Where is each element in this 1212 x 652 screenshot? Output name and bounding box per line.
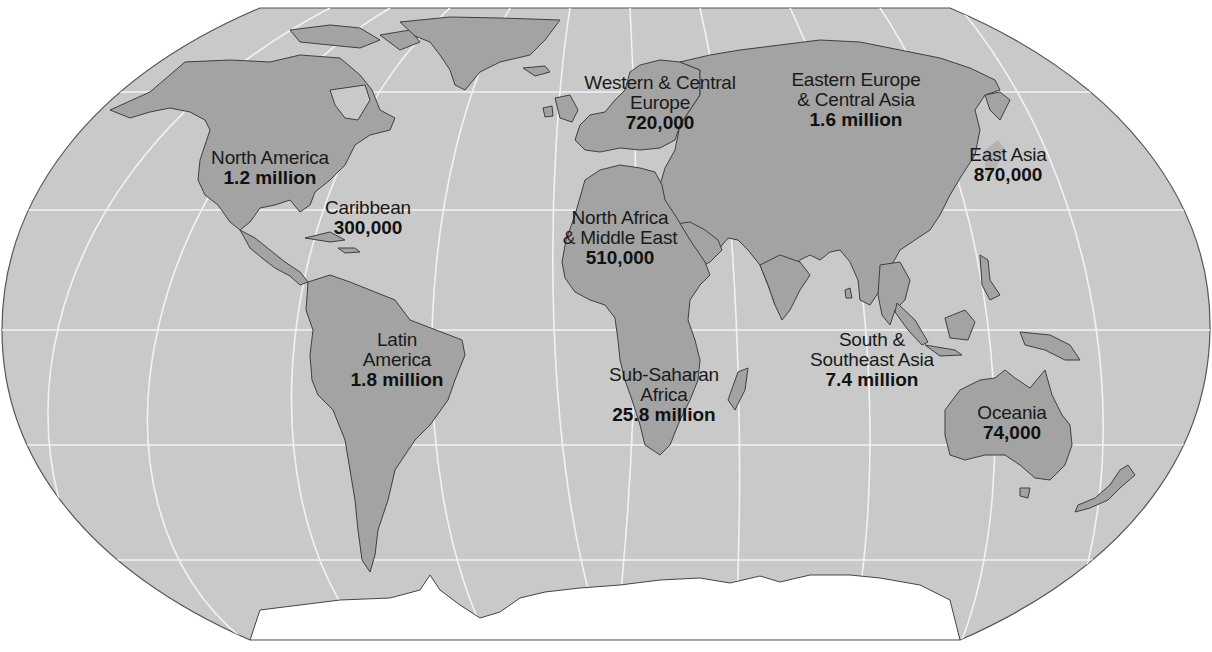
region-label-caribbean: Caribbean 300,000 — [325, 198, 411, 238]
region-value: 25.8 million — [609, 405, 719, 425]
region-name-line-2: & Middle East — [563, 228, 678, 248]
region-name-line-2: Southeast Asia — [810, 350, 934, 370]
region-value: 300,000 — [325, 218, 411, 238]
region-label-north-america: North America 1.2 million — [211, 148, 329, 188]
region-name-line-1: Sub-Saharan — [609, 365, 719, 385]
region-value: 1.2 million — [211, 168, 329, 188]
region-name: Caribbean — [325, 198, 411, 218]
region-name-line-1: Latin — [351, 330, 444, 350]
region-label-east-asia: East Asia 870,000 — [969, 145, 1046, 185]
region-value: 7.4 million — [810, 370, 934, 390]
region-value: 1.8 million — [351, 370, 444, 390]
region-name-line-1: Western & Central — [584, 73, 735, 93]
region-value: 1.6 million — [791, 110, 920, 130]
region-value: 510,000 — [563, 248, 678, 268]
region-name: Oceania — [977, 403, 1046, 423]
region-label-oceania: Oceania 74,000 — [977, 403, 1046, 443]
region-name-line-2: Africa — [609, 385, 719, 405]
region-value: 720,000 — [584, 113, 735, 133]
region-name-line-2: & Central Asia — [791, 90, 920, 110]
region-label-eastern-europe-central-asia: Eastern Europe & Central Asia 1.6 millio… — [791, 70, 920, 130]
region-name-line-2: Europe — [584, 93, 735, 113]
region-label-sub-saharan-africa: Sub-Saharan Africa 25.8 million — [609, 365, 719, 425]
region-label-western-central-europe: Western & Central Europe 720,000 — [584, 73, 735, 133]
region-name-line-2: America — [351, 350, 444, 370]
region-label-south-southeast-asia: South & Southeast Asia 7.4 million — [810, 330, 934, 390]
region-name-line-1: North Africa — [563, 208, 678, 228]
region-value: 74,000 — [977, 423, 1046, 443]
region-label-latin-america: Latin America 1.8 million — [351, 330, 444, 390]
region-name: North America — [211, 148, 329, 168]
region-name: East Asia — [969, 145, 1046, 165]
region-name-line-1: South & — [810, 330, 934, 350]
region-name-line-1: Eastern Europe — [791, 70, 920, 90]
region-label-north-africa-middle-east: North Africa & Middle East 510,000 — [563, 208, 678, 268]
region-value: 870,000 — [969, 165, 1046, 185]
